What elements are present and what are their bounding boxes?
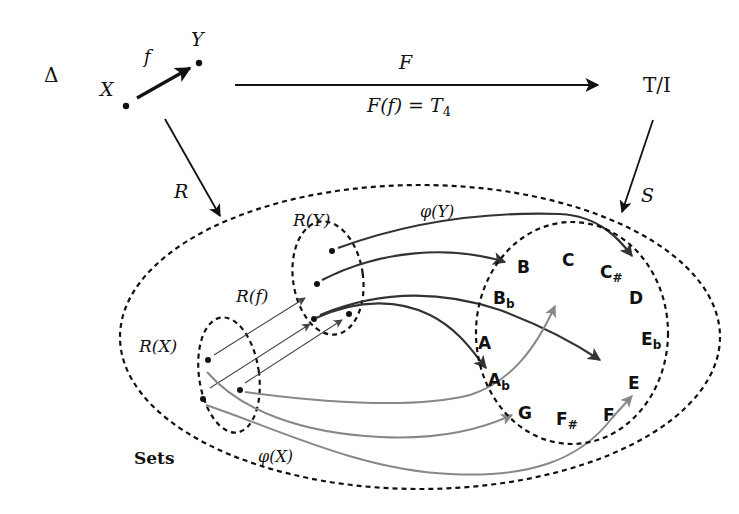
- phi-x-label: φ(X): [258, 447, 293, 466]
- object-y-label: Y: [191, 28, 206, 50]
- target-ti-label: T/I: [643, 73, 671, 97]
- object-x-dot: [123, 103, 129, 109]
- note-c-sharp: C#: [600, 262, 623, 285]
- note-a: A: [478, 333, 492, 353]
- note-a-flat-accidental: b: [501, 379, 510, 393]
- functor-f-label: F: [398, 51, 413, 73]
- functor-s-label: S: [641, 184, 654, 206]
- note-f-sharp: F#: [556, 409, 578, 432]
- note-e-flat-base: E: [641, 329, 653, 349]
- ry-element-2: [314, 281, 320, 287]
- phi-x-arrow-to-g: [207, 372, 512, 438]
- object-x-label: X: [98, 78, 115, 100]
- functor-equation-subscript: 4: [443, 104, 451, 119]
- ry-element-1: [329, 248, 335, 254]
- sets-label: Sets: [134, 448, 175, 468]
- note-b-flat-base: B: [493, 288, 506, 308]
- rx-element-1: [205, 357, 211, 363]
- note-b: B: [517, 257, 530, 277]
- functor-equation-main: F(f) = T: [366, 94, 444, 116]
- note-c: C: [562, 250, 574, 270]
- note-c-sharp-accidental: #: [612, 271, 622, 285]
- morphism-f-label: f: [142, 46, 154, 67]
- note-e: E: [628, 373, 640, 393]
- note-g: G: [518, 403, 532, 423]
- ry-element-4: [346, 311, 352, 317]
- rx-element-2: [200, 396, 206, 402]
- ry-label: R(Y): [292, 210, 330, 230]
- phi-y-arrow-to-ab: [316, 303, 486, 368]
- phi-y-label: φ(Y): [420, 202, 454, 221]
- phi-y-arrow-to-b: [322, 252, 505, 280]
- rx-ellipse: [191, 313, 267, 436]
- object-y-dot: [196, 60, 202, 66]
- note-d: D: [629, 288, 643, 308]
- rx-label: R(X): [138, 336, 177, 356]
- rf-arrow-3: [245, 320, 342, 383]
- functor-r-label: R: [173, 180, 188, 202]
- rx-element-3: [237, 387, 243, 393]
- rf-arrow-1: [214, 298, 305, 355]
- note-a-flat-base: A: [488, 370, 502, 390]
- functor-equation: F(f) = T4: [366, 94, 451, 119]
- functor-diagram: Δ X f Y F F(f) = T4 T/I R S Sets R(Y) R(…: [0, 0, 739, 514]
- note-b-flat-accidental: b: [506, 297, 515, 311]
- delta-label: Δ: [44, 63, 58, 87]
- phi-y-arrow-to-d: [338, 214, 632, 256]
- note-e-flat-accidental: b: [653, 338, 662, 352]
- note-c-sharp-base: C: [600, 262, 612, 282]
- note-f-sharp-base: F: [556, 409, 568, 429]
- note-f-sharp-accidental: #: [568, 418, 578, 432]
- note-f: F: [603, 405, 615, 425]
- sets-ellipse: [120, 185, 720, 489]
- rf-arrow-2: [210, 324, 310, 388]
- rf-label: R(f): [235, 286, 268, 306]
- note-b-flat: Bb: [493, 288, 515, 311]
- morphism-f-arrow: [137, 68, 190, 98]
- note-e-flat: Eb: [641, 329, 662, 352]
